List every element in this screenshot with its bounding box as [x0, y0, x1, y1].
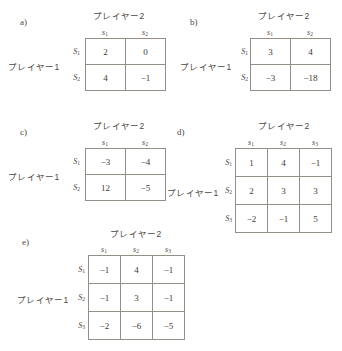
matrix-cell: 0 — [126, 39, 166, 65]
matrix-row: −2 −6 −5 — [89, 312, 185, 340]
column-header-e-3: s3 — [152, 245, 184, 254]
matrix-cell: 5 — [300, 205, 332, 233]
matrix-a: 2 0 4 −1 — [85, 38, 166, 91]
player1-heading-c: プレイヤー1 — [8, 170, 60, 182]
matrix-row: −1 4 −1 — [89, 256, 185, 284]
matrix-cell: −1 — [89, 256, 121, 284]
player2-heading-c: プレイヤー2 — [93, 119, 145, 131]
column-header-d-2: s2 — [267, 138, 299, 147]
player2-heading-d: プレイヤー2 — [258, 119, 310, 131]
matrix-cell: −1 — [153, 284, 185, 312]
matrix-c: −3 −4 12 −5 — [85, 148, 166, 201]
row-header-d-1: S1 — [216, 158, 232, 167]
matrix-cell: −5 — [153, 312, 185, 340]
matrix-cell: 3 — [251, 39, 291, 65]
matrix-row: −1 3 −1 — [89, 284, 185, 312]
row-header-e-3: S3 — [69, 321, 85, 330]
matrix-cell: 2 — [236, 177, 268, 205]
player2-heading-e: プレイヤー2 — [110, 227, 162, 239]
row-header-c-1: S1 — [62, 157, 80, 166]
column-header-e-2: s2 — [120, 245, 152, 254]
matrix-cell: −1 — [126, 65, 166, 91]
matrix-cell: −5 — [126, 175, 166, 201]
matrix-cell: −18 — [291, 65, 331, 91]
matrix-cell: −2 — [236, 205, 268, 233]
matrix-cell: 4 — [291, 39, 331, 65]
matrix-cell: −1 — [89, 284, 121, 312]
row-header-d-2: S2 — [216, 186, 232, 195]
panel-letter-b: b) — [190, 17, 198, 27]
matrix-cell: 1 — [236, 149, 268, 177]
matrix-row: 3 4 — [251, 39, 331, 65]
matrix-cell: −1 — [153, 256, 185, 284]
row-header-a-2: S2 — [62, 73, 80, 82]
matrix-cell: −3 — [251, 65, 291, 91]
matrix-d: 1 4 −1 2 3 3 −2 −1 5 — [235, 148, 332, 233]
matrix-row: −2 −1 5 — [236, 205, 332, 233]
matrix-cell: 3 — [121, 284, 153, 312]
matrix-e: −1 4 −1 −1 3 −1 −2 −6 −5 — [88, 255, 185, 340]
column-header-a-2: s2 — [125, 28, 165, 37]
matrix-cell: 4 — [121, 256, 153, 284]
column-header-c-1: s1 — [85, 138, 125, 147]
matrix-row: 12 −5 — [86, 175, 166, 201]
row-header-b-1: S1 — [232, 47, 248, 56]
player1-heading-b: プレイヤー1 — [180, 60, 232, 72]
panel-letter-c: c) — [20, 127, 27, 137]
matrix-cell: 4 — [268, 149, 300, 177]
panel-letter-d: d) — [177, 127, 185, 137]
matrix-cell: −1 — [268, 205, 300, 233]
matrix-row: 2 3 3 — [236, 177, 332, 205]
matrix-row: 2 0 — [86, 39, 166, 65]
matrix-row: −3 −4 — [86, 149, 166, 175]
matrix-cell: 3 — [300, 177, 332, 205]
column-header-b-1: s1 — [250, 28, 290, 37]
matrix-b: 3 4 −3 −18 — [250, 38, 331, 91]
player1-heading-d: プレイヤー1 — [167, 186, 219, 198]
column-header-b-2: s2 — [290, 28, 330, 37]
column-header-c-2: s2 — [125, 138, 165, 147]
matrix-cell: 2 — [86, 39, 126, 65]
column-header-a-1: s1 — [85, 28, 125, 37]
player2-heading-b: プレイヤー2 — [258, 9, 310, 21]
matrix-cell: 12 — [86, 175, 126, 201]
column-header-e-1: s1 — [88, 245, 120, 254]
column-header-d-3: s3 — [299, 138, 331, 147]
row-header-b-2: S2 — [232, 73, 248, 82]
row-header-d-3: S3 — [216, 214, 232, 223]
player1-heading-e: プレイヤー1 — [17, 293, 69, 305]
matrix-cell: −2 — [89, 312, 121, 340]
column-header-d-1: s1 — [235, 138, 267, 147]
panel-letter-a: a) — [20, 17, 27, 27]
matrix-row: −3 −18 — [251, 65, 331, 91]
matrix-row: 1 4 −1 — [236, 149, 332, 177]
matrix-cell: 4 — [86, 65, 126, 91]
player2-heading-a: プレイヤー2 — [93, 9, 145, 21]
row-header-a-1: S1 — [62, 47, 80, 56]
player1-heading-a: プレイヤー1 — [8, 60, 60, 72]
row-header-c-2: S2 — [62, 183, 80, 192]
matrix-cell: −3 — [86, 149, 126, 175]
matrix-cell: −1 — [300, 149, 332, 177]
matrix-cell: −4 — [126, 149, 166, 175]
row-header-e-2: S2 — [69, 293, 85, 302]
matrix-cell: 3 — [268, 177, 300, 205]
matrix-row: 4 −1 — [86, 65, 166, 91]
row-header-e-1: S1 — [69, 265, 85, 274]
panel-letter-e: e) — [22, 237, 29, 247]
matrix-cell: −6 — [121, 312, 153, 340]
